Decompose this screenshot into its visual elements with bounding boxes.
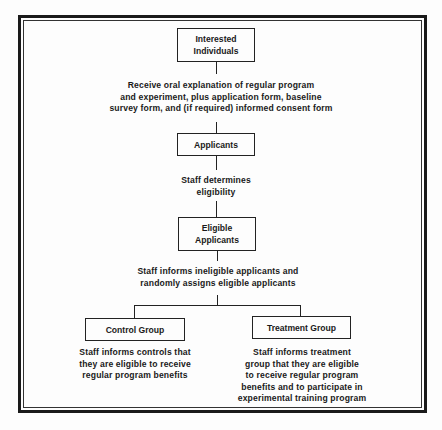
treatment-group-note: Staff informs treatment group that they … (225, 347, 379, 405)
connector-line (216, 156, 217, 170)
step-random-assignment: Staff informs ineligible applicants and … (110, 266, 326, 289)
node-label: Interested Individuals (194, 33, 239, 57)
connector-line (300, 305, 301, 316)
step-determine-eligibility: Staff determines eligibility (146, 175, 286, 198)
connector-line (216, 122, 217, 133)
node-applicants: Applicants (177, 133, 255, 156)
control-group-note: Staff informs controls that they are eli… (62, 347, 208, 382)
node-label: Eligible Applicants (195, 222, 239, 246)
connector-line (134, 305, 135, 318)
connector-line (216, 201, 217, 217)
node-control-group: Control Group (85, 318, 185, 341)
node-treatment-group: Treatment Group (252, 316, 351, 339)
branch-line (134, 305, 300, 306)
node-label: Treatment Group (267, 322, 336, 334)
connector-line (217, 295, 218, 305)
connector-line (216, 62, 217, 74)
node-label: Control Group (106, 324, 165, 336)
node-eligible-applicants: Eligible Applicants (178, 217, 256, 251)
step-receive-explanation: Receive oral explanation of regular prog… (60, 80, 382, 115)
node-interested-individuals: Interested Individuals (177, 28, 255, 62)
connector-line (217, 251, 218, 261)
node-label: Applicants (194, 139, 238, 151)
